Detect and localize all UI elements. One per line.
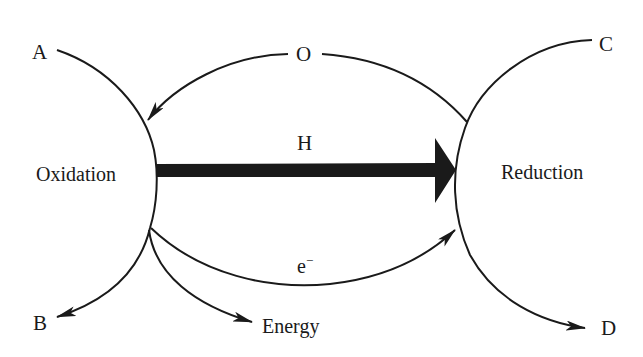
oxidation-curve	[57, 50, 157, 228]
electron-charge: −	[306, 253, 313, 268]
label-d: D	[601, 318, 616, 339]
label-electron: e−	[297, 256, 313, 276]
label-oxidation: Oxidation	[36, 164, 116, 184]
label-b: B	[33, 313, 47, 334]
label-a: A	[32, 42, 47, 63]
electron-symbol: e	[297, 255, 306, 277]
label-reduction: Reduction	[501, 162, 583, 182]
oxygen-arc-right	[322, 54, 467, 122]
reduction-curve	[455, 40, 592, 328]
arrow-to-b	[57, 228, 150, 317]
label-hydrogen: H	[297, 133, 312, 154]
label-c: C	[599, 34, 613, 55]
label-energy: Energy	[262, 316, 319, 336]
label-oxygen: O	[296, 44, 311, 65]
oxygen-arrow	[148, 54, 288, 120]
